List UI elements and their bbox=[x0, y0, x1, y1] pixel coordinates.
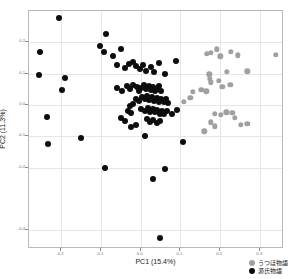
gridline-vertical bbox=[61, 11, 62, 247]
legend-label: うつほ物語 bbox=[258, 260, 288, 266]
y-tick-label: -0.2 bbox=[10, 164, 25, 168]
data-point bbox=[158, 88, 164, 94]
data-point bbox=[174, 107, 180, 113]
data-point bbox=[114, 62, 120, 68]
data-point bbox=[212, 124, 217, 129]
data-point bbox=[59, 87, 65, 93]
y-tick-mark bbox=[25, 73, 28, 74]
data-point bbox=[157, 118, 163, 124]
data-point bbox=[173, 58, 179, 64]
data-point bbox=[62, 75, 68, 81]
data-point bbox=[44, 114, 50, 120]
legend-swatch-icon bbox=[249, 260, 255, 266]
data-point bbox=[188, 95, 193, 100]
x-tick-label: 0.3 bbox=[256, 252, 262, 256]
data-point bbox=[118, 46, 124, 52]
x-axis-label: PC1 (15.4%) bbox=[28, 258, 283, 265]
data-point bbox=[224, 110, 229, 115]
y-tick-mark bbox=[25, 41, 28, 42]
y-tick-mark bbox=[25, 229, 28, 230]
gridline-horizontal bbox=[29, 105, 282, 106]
data-point bbox=[228, 82, 233, 87]
data-point bbox=[156, 60, 162, 66]
data-point bbox=[102, 165, 108, 171]
y-tick-mark bbox=[25, 104, 28, 105]
data-point bbox=[181, 99, 186, 104]
legend-entry[interactable]: 源氏物語 bbox=[249, 268, 282, 274]
data-point bbox=[151, 69, 157, 75]
x-tick-label: -0.2 bbox=[56, 252, 63, 256]
data-point bbox=[101, 49, 107, 55]
data-point bbox=[119, 88, 125, 94]
legend-label: 源氏物語 bbox=[258, 268, 282, 274]
data-point bbox=[212, 111, 217, 116]
y-tick-label: 0.2 bbox=[10, 39, 25, 43]
data-point bbox=[110, 53, 116, 59]
legend-entry[interactable]: うつほ物語 bbox=[249, 260, 288, 266]
y-tick-label: -0.4 bbox=[10, 227, 25, 231]
data-point bbox=[228, 49, 233, 54]
gridline-vertical bbox=[141, 11, 142, 247]
gridline-horizontal bbox=[29, 168, 282, 169]
data-point bbox=[162, 71, 168, 77]
x-tick-label: 0.2 bbox=[216, 252, 222, 256]
data-point bbox=[218, 54, 223, 59]
data-point bbox=[150, 176, 156, 182]
data-point bbox=[130, 101, 136, 107]
y-tick-label: -0.1 bbox=[10, 133, 25, 137]
scatter-plot-figure: -0.2-0.10.00.10.20.3 -0.4-0.2-0.10.00.10… bbox=[0, 0, 294, 279]
data-point bbox=[202, 129, 207, 134]
y-tick-label: 0.0 bbox=[10, 102, 25, 106]
data-point bbox=[45, 141, 51, 147]
gridline-horizontal bbox=[29, 230, 282, 231]
data-point bbox=[245, 121, 250, 126]
data-point bbox=[36, 72, 42, 78]
plot-panel bbox=[28, 10, 283, 248]
x-tick-label: -0.1 bbox=[96, 252, 103, 256]
data-point bbox=[180, 139, 186, 145]
gridline-horizontal bbox=[29, 136, 282, 137]
x-tick-label: 0.1 bbox=[176, 252, 182, 256]
data-point bbox=[235, 53, 240, 58]
data-point bbox=[78, 135, 84, 141]
data-point bbox=[122, 118, 128, 124]
data-point bbox=[204, 88, 209, 93]
data-point bbox=[165, 100, 171, 106]
data-point bbox=[56, 15, 62, 21]
data-point bbox=[162, 166, 168, 172]
gridline-horizontal bbox=[29, 42, 282, 43]
y-tick-label: 0.1 bbox=[10, 71, 25, 75]
gridline-vertical bbox=[260, 11, 261, 247]
legend: うつほ物語源氏物語 bbox=[249, 260, 288, 274]
x-tick-label: 0.0 bbox=[137, 252, 143, 256]
y-tick-mark bbox=[25, 135, 28, 136]
data-point bbox=[214, 47, 219, 52]
data-point bbox=[273, 52, 278, 57]
gridline-vertical bbox=[220, 11, 221, 247]
data-point bbox=[133, 122, 139, 128]
data-point bbox=[238, 122, 243, 127]
data-point bbox=[37, 49, 43, 55]
data-point bbox=[208, 50, 213, 55]
legend-swatch-icon bbox=[249, 268, 255, 274]
data-point bbox=[208, 80, 213, 85]
y-tick-mark bbox=[25, 167, 28, 168]
data-point bbox=[232, 115, 237, 120]
data-point bbox=[142, 133, 148, 139]
data-point bbox=[157, 235, 163, 241]
data-point bbox=[128, 110, 134, 116]
y-axis-label: PC2 (11.3%) bbox=[0, 109, 6, 149]
data-point bbox=[220, 84, 225, 89]
data-point bbox=[190, 89, 195, 94]
gridline-vertical bbox=[180, 11, 181, 247]
data-point bbox=[103, 31, 109, 37]
